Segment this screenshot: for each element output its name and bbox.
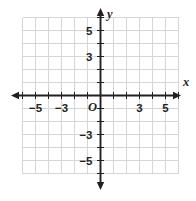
y-tick-label: 5 bbox=[86, 25, 93, 37]
coordinate-plane-figure: −5−335 53−3−5 O x y bbox=[0, 0, 196, 201]
x-tick-label: 3 bbox=[136, 102, 142, 114]
x-axis-label: x bbox=[182, 75, 189, 89]
y-axis-up-arrow-icon bbox=[97, 8, 104, 16]
y-tick-label: 3 bbox=[86, 51, 92, 63]
coordinate-plane-svg: −5−335 53−3−5 O x y bbox=[0, 0, 196, 201]
x-axis-left-arrow-icon bbox=[11, 92, 19, 99]
x-tick-label: 5 bbox=[162, 102, 169, 114]
x-axis-tick-labels: −5−335 bbox=[29, 102, 169, 114]
axes bbox=[11, 8, 181, 190]
y-tick-label: −5 bbox=[79, 155, 93, 167]
origin-label: O bbox=[88, 100, 97, 114]
x-axis-right-arrow-icon bbox=[173, 92, 181, 99]
y-axis-label: y bbox=[105, 7, 113, 21]
y-axis-down-arrow-icon bbox=[97, 182, 104, 190]
y-tick-label: −3 bbox=[79, 129, 92, 141]
x-tick-label: −5 bbox=[29, 102, 43, 114]
x-tick-label: −3 bbox=[55, 102, 68, 114]
